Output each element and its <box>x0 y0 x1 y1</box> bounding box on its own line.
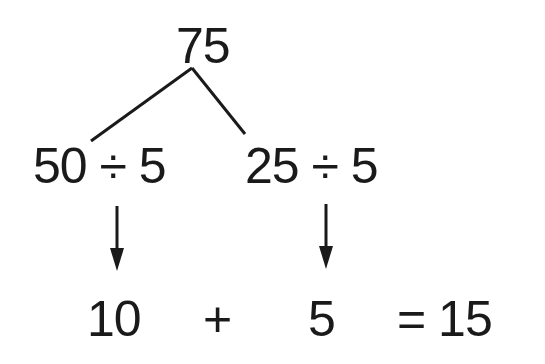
right-arrow-down-icon <box>319 246 333 269</box>
left-result: 10 <box>87 294 141 344</box>
total-result: = 15 <box>397 294 492 344</box>
plus-operator: + <box>203 294 231 344</box>
factor-tree-diagram: 75 50 ÷ 5 25 ÷ 5 10 + 5 = 15 <box>0 0 545 364</box>
right-result: 5 <box>308 294 335 344</box>
left-expression: 50 ÷ 5 <box>33 141 166 191</box>
right-expression: 25 ÷ 5 <box>245 141 378 191</box>
right-branch-line <box>192 68 245 134</box>
left-arrow-down-icon <box>110 248 124 271</box>
root-number: 75 <box>176 21 230 71</box>
left-branch-line <box>91 68 192 141</box>
